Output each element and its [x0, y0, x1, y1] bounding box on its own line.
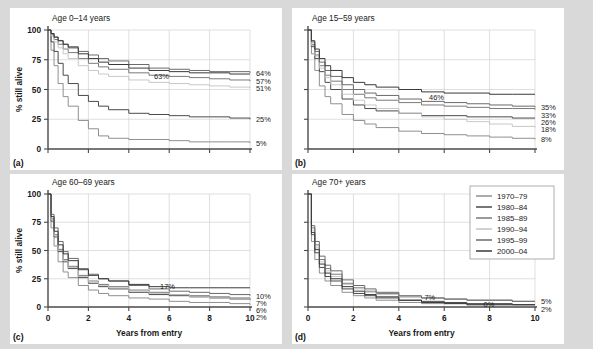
y-tick-label: 75 — [32, 55, 42, 65]
figure-root: Age 0–14 years0255075100% still alive(a)… — [0, 0, 593, 349]
chart-panel-c: Age 60–69 years02550751000246810% still … — [10, 174, 282, 344]
x-tick-label: 4 — [126, 313, 131, 323]
y-tick-label: 100 — [27, 189, 41, 199]
legend-label: 2000–04 — [497, 247, 528, 256]
legend: 1970–791980–841985–891990–941995–992000–… — [470, 186, 554, 259]
legend-label: 1990–94 — [497, 225, 528, 234]
legend-label: 1970–79 — [497, 192, 527, 201]
series-line-1985–89 — [48, 30, 250, 81]
panel-letter: (a) — [13, 158, 24, 168]
series-end-label: 25% — [256, 115, 271, 124]
chart-panel-b: Age 15–59 years(b)46%35%33%26%18%8% — [292, 8, 564, 170]
legend-label: 1980–84 — [497, 203, 528, 212]
y-axis-title: % still alive — [14, 67, 24, 112]
x-tick-label: 10 — [245, 313, 255, 323]
series-end-label: 51% — [256, 84, 271, 93]
panel-letter: (c) — [13, 332, 24, 342]
series-end-label: 2% — [256, 313, 267, 322]
legend-label: 1995–99 — [497, 236, 527, 245]
x-tick-label: 6 — [442, 313, 447, 323]
x-tick-label: 2 — [351, 313, 356, 323]
curves — [48, 30, 250, 143]
panel-letter: (b) — [295, 158, 306, 168]
x-tick-label: 6 — [167, 313, 172, 323]
x-tick-label: 8 — [207, 313, 212, 323]
panel-title: Age 0–14 years — [52, 13, 110, 23]
x-tick-label: 8 — [487, 313, 492, 323]
chart-panel-a: Age 0–14 years0255075100% still alive(a)… — [10, 8, 282, 170]
x-tick-label: 10 — [530, 313, 540, 323]
x-axis-title: Years from entry — [388, 328, 454, 338]
y-tick-label: 0 — [36, 144, 41, 154]
panel-letter: (d) — [295, 332, 306, 342]
legend-label: 1985–89 — [497, 214, 527, 223]
series-line-1990–94 — [48, 30, 250, 88]
x-tick-label: 0 — [306, 313, 311, 323]
y-tick-label: 100 — [27, 25, 41, 35]
curve-annotation: 46% — [429, 93, 444, 102]
curve-annotation: 0% — [484, 300, 495, 309]
curves — [48, 194, 250, 305]
x-axis-title: Years from entry — [116, 328, 182, 338]
y-tick-label: 50 — [32, 246, 42, 256]
x-tick-label: 4 — [396, 313, 401, 323]
series-end-label: 5% — [256, 139, 267, 148]
curve-annotation: 17% — [160, 282, 175, 291]
y-tick-label: 25 — [32, 274, 42, 284]
series-end-label: 18% — [541, 125, 556, 134]
series-end-label: 8% — [541, 135, 552, 144]
series-end-label: 2% — [541, 305, 552, 314]
chart-panel-d: Age 70+ years0246810Years from entry(d)7… — [292, 174, 564, 344]
panel-title: Age 15–59 years — [312, 13, 375, 23]
panel-title: Age 70+ years — [312, 177, 366, 187]
x-tick-label: 2 — [86, 313, 91, 323]
panel-title: Age 60–69 years — [52, 177, 115, 187]
y-tick-label: 50 — [32, 85, 42, 95]
y-tick-label: 75 — [32, 217, 42, 227]
curves — [308, 30, 535, 139]
curve-annotation: 63% — [154, 72, 169, 81]
y-axis-title: % still alive — [14, 228, 24, 273]
curve-annotation: 7% — [425, 293, 436, 302]
y-tick-label: 25 — [32, 114, 42, 124]
y-tick-label: 0 — [36, 302, 41, 312]
x-tick-label: 0 — [46, 313, 51, 323]
